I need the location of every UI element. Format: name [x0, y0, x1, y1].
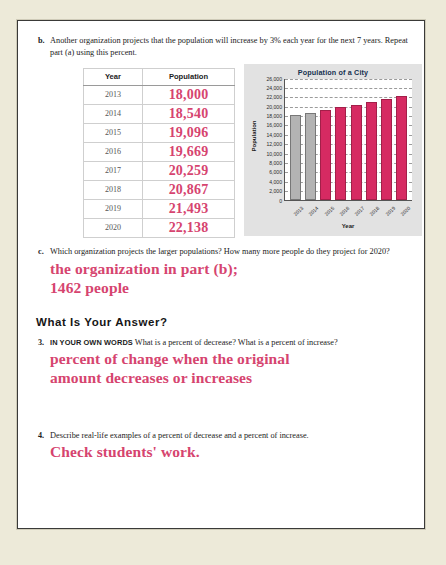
table-row: 201519,096 [84, 123, 235, 142]
y-axis-ticks: 26,00024,00022,00020,00018,00016,00014,0… [256, 79, 282, 201]
part-c-answer: the organization in part (b); 1462 peopl… [36, 260, 408, 297]
question-3-lead: IN YOUR OWN WORDS [50, 338, 133, 347]
table-cell-population: 20,259 [143, 161, 235, 180]
question-3-text: IN YOUR OWN WORDS What is a percent of d… [50, 337, 408, 349]
bar-series [285, 79, 412, 200]
y-axis-tick-label: 14,000 [266, 132, 282, 138]
problem-part-c: c. Which organization projects the large… [36, 246, 408, 258]
bar-2018 [366, 102, 377, 200]
table-row: 201418,540 [84, 104, 235, 123]
y-axis-tick-label: 16,000 [266, 122, 282, 128]
y-axis-tick-label: 26,000 [266, 76, 282, 82]
part-c-text: Which organization projects the larger p… [50, 246, 408, 258]
question-3-answer-line-2: amount decreases or increases [50, 369, 408, 388]
part-c-answer-line-1: the organization in part (b); [50, 260, 408, 279]
y-axis-tick-label: 20,000 [266, 104, 282, 110]
table-cell-year: 2016 [84, 142, 143, 161]
table-row: 202022,138 [84, 218, 235, 237]
bar-2013 [290, 115, 301, 199]
part-c-marker: c. [36, 246, 50, 258]
y-axis-tick-label: 18,000 [266, 113, 282, 119]
table-cell-population: 20,867 [143, 180, 235, 199]
y-axis-tick-label: 10,000 [266, 151, 282, 157]
section-heading-what-is-your-answer: What Is Your Answer? [36, 316, 408, 328]
y-axis-tick-label: 24,000 [266, 85, 282, 91]
question-4-answer-text: Check students' work. [50, 443, 408, 462]
chart-plot-region: Population 26,00024,00022,00020,00018,00… [244, 77, 422, 236]
table-cell-population: 19,669 [143, 142, 235, 161]
table-header-row: Year Population [84, 68, 235, 85]
table-body: 201318,000201418,540201519,096201619,669… [84, 85, 235, 237]
y-axis-tick-label: 2,000 [269, 188, 282, 194]
x-axis-tick-labels: 20132014201520162017201820192020 [284, 203, 412, 225]
y-axis-tick-label: 22,000 [266, 94, 282, 100]
part-b-marker: b. [36, 35, 50, 47]
table-cell-population: 22,138 [143, 218, 235, 237]
bar-2016 [335, 107, 346, 199]
problem-part-b: b. Another organization projects that th… [36, 35, 408, 59]
part-c-answer-line-2: 1462 people [50, 279, 408, 298]
table-cell-year: 2020 [84, 218, 143, 237]
y-axis-tick-label: 12,000 [266, 141, 282, 147]
population-bar-chart: Population of a City Population 26,00024… [244, 64, 422, 236]
table-row: 201318,000 [84, 85, 235, 104]
y-axis-tick-label: 4,000 [269, 179, 282, 185]
table-cell-population: 19,096 [143, 123, 235, 142]
table-cell-year: 2013 [84, 85, 143, 104]
table-cell-population: 18,540 [143, 104, 235, 123]
question-4-text: Describe real-life examples of a percent… [50, 430, 408, 442]
table-cell-population: 21,493 [143, 199, 235, 218]
question-3-answer-line-1: percent of change when the original [50, 350, 408, 369]
y-axis-tick-label: 6,000 [269, 169, 282, 175]
question-3-marker: 3. [36, 337, 50, 349]
question-4-answer: Check students' work. [36, 443, 408, 462]
bar-2015 [320, 110, 331, 200]
table-cell-year: 2017 [84, 161, 143, 180]
page-content: b. Another organization projects that th… [18, 21, 424, 528]
part-b-text: Another organization projects that the p… [50, 35, 408, 59]
question-3-answer: percent of change when the original amou… [36, 350, 408, 387]
bar-2020 [396, 96, 407, 200]
question-4-marker: 4. [36, 430, 50, 442]
worksheet-page: b. Another organization projects that th… [17, 20, 425, 529]
y-axis-tick-label: 0 [279, 198, 282, 204]
table-cell-year: 2019 [84, 199, 143, 218]
y-axis-tick-label: 8,000 [269, 160, 282, 166]
bar-2019 [381, 99, 392, 200]
column-header-population: Population [143, 68, 235, 85]
column-header-year: Year [84, 68, 143, 85]
plot-area [284, 79, 412, 201]
table-cell-year: 2018 [84, 180, 143, 199]
bar-2017 [351, 105, 362, 200]
table-cell-year: 2015 [84, 123, 143, 142]
table-cell-population: 18,000 [143, 85, 235, 104]
problem-question-4: 4. Describe real-life examples of a perc… [36, 430, 408, 442]
table-row: 201720,259 [84, 161, 235, 180]
population-table: Year Population 201318,000201418,5402015… [83, 68, 235, 238]
table-row: 201820,867 [84, 180, 235, 199]
table-row: 201921,493 [84, 199, 235, 218]
question-3-body: What is a percent of decrease? What is a… [135, 338, 338, 347]
bar-2014 [305, 113, 316, 200]
table-cell-year: 2014 [84, 104, 143, 123]
table-row: 201619,669 [84, 142, 235, 161]
problem-question-3: 3. IN YOUR OWN WORDS What is a percent o… [36, 337, 408, 349]
part-b-body: Year Population 201318,000201418,5402015… [36, 68, 408, 240]
x-axis-title: Year [284, 223, 412, 229]
